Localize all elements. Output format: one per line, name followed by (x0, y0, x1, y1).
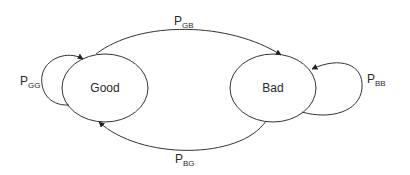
label-pbg-main: P (175, 152, 183, 166)
label-pgb: PGB (174, 14, 194, 30)
arrow-bg (99, 121, 266, 150)
transition-bad-good: PBG (99, 121, 266, 168)
state-good: Good (62, 54, 148, 122)
transition-good-good: PGG (20, 55, 83, 105)
label-pgg-sub: GG (28, 81, 40, 90)
transition-bad-bad: PBB (302, 63, 386, 115)
state-good-label: Good (90, 81, 119, 95)
label-pbb: PBB (367, 72, 386, 88)
arrow-gb (96, 29, 281, 55)
label-pbb-main: P (367, 72, 375, 86)
label-pbg-sub: BG (183, 159, 195, 168)
state-diagram: Good Bad PGG PGB PBG PBB (0, 0, 410, 175)
arrow-bb (302, 63, 362, 115)
label-pgb-main: P (174, 14, 182, 28)
label-pbb-sub: BB (375, 79, 386, 88)
state-bad-label: Bad (262, 81, 283, 95)
label-pbg: PBG (175, 152, 195, 168)
transition-good-bad: PGB (96, 14, 281, 55)
label-pgg: PGG (20, 74, 40, 90)
label-pgb-sub: GB (182, 21, 194, 30)
label-pgg-main: P (20, 74, 28, 88)
